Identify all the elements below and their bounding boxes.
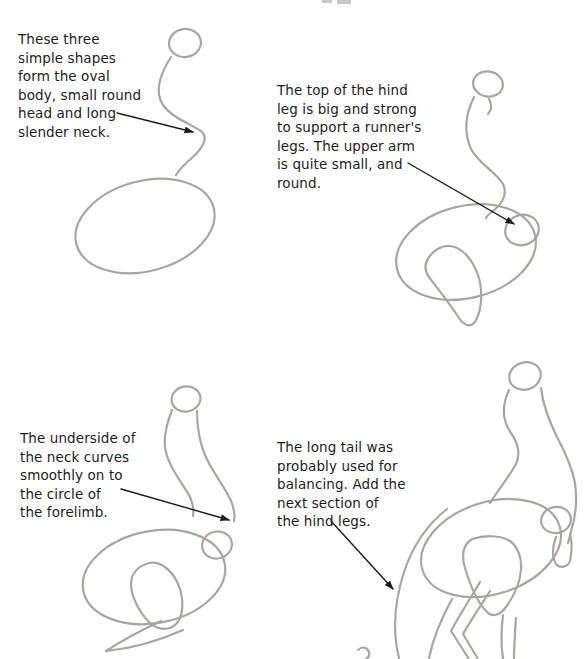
body-oval bbox=[386, 190, 546, 314]
lower-leg-left-back-line bbox=[463, 591, 490, 659]
head-circle bbox=[170, 384, 203, 414]
neck-outline-left bbox=[490, 390, 518, 503]
head-circle bbox=[506, 358, 545, 394]
forelimb-taper-lower-line bbox=[106, 630, 183, 651]
body-oval bbox=[65, 164, 225, 288]
caption-step-2: The top of the hind leg is big and stron… bbox=[277, 81, 452, 192]
tail-outer-line bbox=[395, 509, 447, 658]
caption-step-4: The long tail was probably used for bala… bbox=[277, 438, 442, 531]
neck-outline-right bbox=[197, 411, 234, 521]
tutorial-page: These three simple shapes form the oval … bbox=[0, 0, 584, 659]
hind-leg-top bbox=[463, 536, 521, 615]
lower-leg-right-back-line bbox=[514, 618, 516, 659]
forelimb-circle bbox=[199, 528, 235, 562]
tail-inner-line bbox=[429, 599, 452, 658]
caption-step-3: The underside of the neck curves smoothl… bbox=[20, 429, 180, 522]
jaw-stroke bbox=[488, 99, 491, 114]
caption-step-1: These three simple shapes form the oval … bbox=[18, 30, 178, 141]
lower-leg-right-front-line bbox=[502, 615, 504, 659]
foot-mark bbox=[358, 648, 369, 659]
hind-leg-top bbox=[425, 246, 481, 326]
body-oval bbox=[75, 518, 234, 636]
arrow-to-tail bbox=[331, 521, 393, 589]
head-circle bbox=[471, 69, 505, 99]
